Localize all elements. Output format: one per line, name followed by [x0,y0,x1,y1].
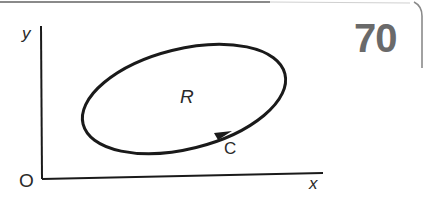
curve-label: C [224,139,236,159]
figure: y x O R C 70 [0,0,435,210]
origin-label: O [19,170,34,192]
x-axis-label: x [309,174,318,194]
frame-top-line-faint [270,2,410,3]
x-axis [42,173,323,179]
y-axis-label: y [22,24,31,44]
page-number: 70 [354,16,397,61]
frame-right-bracket [414,2,422,68]
y-axis [41,26,42,179]
region-label: R [180,86,194,108]
